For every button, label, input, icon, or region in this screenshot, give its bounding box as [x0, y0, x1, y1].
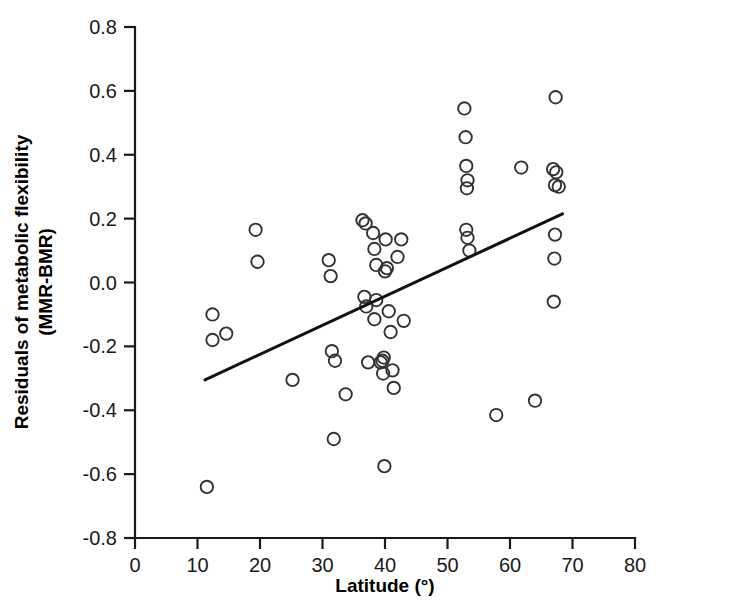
data-point	[529, 394, 541, 406]
scatter-plot-figure: -0.8-0.6-0.4-0.20.00.20.40.60.8 01020304…	[0, 0, 731, 609]
x-axis-tick-labels: 01020304050607080	[129, 554, 646, 576]
x-axis-title: Latitude (°)	[335, 575, 434, 596]
y-tick-label: 0.6	[89, 80, 117, 102]
data-point	[323, 254, 335, 266]
data-point	[549, 91, 561, 103]
data-point	[461, 182, 473, 194]
data-point	[383, 305, 395, 317]
data-point	[547, 163, 559, 175]
data-point	[490, 409, 502, 421]
data-point	[356, 214, 368, 226]
data-point	[395, 233, 407, 245]
y-tick-label: -0.6	[83, 463, 117, 485]
axes	[135, 27, 635, 538]
y-tick-label: 0.2	[89, 208, 117, 230]
data-point	[206, 308, 218, 320]
y-axis-tick-labels: -0.8-0.6-0.4-0.20.00.20.40.60.8	[83, 16, 117, 549]
y-tick-label: -0.2	[83, 335, 117, 357]
y-tick-label: -0.4	[83, 399, 117, 421]
y-tick-label: 0.8	[89, 16, 117, 38]
x-tick-label: 30	[311, 554, 333, 576]
y-tick-label: -0.8	[83, 527, 117, 549]
data-point	[379, 233, 391, 245]
data-point	[201, 481, 213, 493]
data-point	[206, 334, 218, 346]
y-tick-label: 0.4	[89, 144, 117, 166]
data-point	[362, 356, 374, 368]
data-point	[220, 327, 232, 339]
data-point	[368, 243, 380, 255]
data-point	[548, 295, 560, 307]
data-point	[458, 102, 470, 114]
chart-canvas: -0.8-0.6-0.4-0.20.00.20.40.60.8 01020304…	[0, 0, 731, 609]
x-tick-label: 80	[624, 554, 646, 576]
data-point	[339, 388, 351, 400]
data-point	[249, 224, 261, 236]
data-point	[391, 251, 403, 263]
y-tick-label: 0.0	[89, 272, 117, 294]
x-tick-label: 40	[374, 554, 396, 576]
data-point	[388, 382, 400, 394]
y-axis-ticks	[124, 27, 135, 538]
data-point	[550, 166, 562, 178]
data-point	[368, 313, 380, 325]
x-tick-label: 10	[186, 554, 208, 576]
data-point	[459, 131, 471, 143]
x-tick-label: 0	[129, 554, 140, 576]
data-point	[461, 232, 473, 244]
data-point	[367, 227, 379, 239]
data-point	[548, 252, 560, 264]
data-point	[460, 160, 472, 172]
x-tick-label: 70	[561, 554, 583, 576]
x-axis-ticks	[135, 538, 635, 549]
data-point	[328, 433, 340, 445]
data-point	[251, 256, 263, 268]
data-point	[549, 228, 561, 240]
data-points-group	[201, 91, 565, 493]
data-point	[398, 315, 410, 327]
data-point	[286, 374, 298, 386]
data-point	[515, 161, 527, 173]
data-point	[378, 460, 390, 472]
x-tick-label: 60	[499, 554, 521, 576]
y-axis-title-line1: Residuals of metabolic flexibility	[11, 134, 32, 429]
data-point	[384, 326, 396, 338]
x-tick-label: 20	[249, 554, 271, 576]
data-point	[324, 270, 336, 282]
x-tick-label: 50	[436, 554, 458, 576]
y-axis-title-line2: (MMR-BMR)	[35, 228, 56, 336]
